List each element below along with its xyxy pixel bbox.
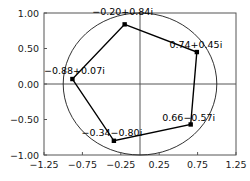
y-tick-label: 0.00 bbox=[18, 79, 39, 90]
y-tick-label: −0.50 bbox=[10, 114, 39, 125]
complex-plane-plot: −0.20+0.84i0.74+0.45i0.66−0.57i−0.34−0.8… bbox=[0, 0, 250, 181]
x-tick-label: −1.25 bbox=[29, 159, 58, 170]
y-tick-label: −1.00 bbox=[10, 150, 39, 161]
x-tick-label: 1.25 bbox=[225, 159, 246, 170]
data-point-marker bbox=[195, 50, 199, 54]
plot-canvas: −0.20+0.84i0.74+0.45i0.66−0.57i−0.34−0.8… bbox=[0, 0, 250, 181]
x-tick-label: 0.75 bbox=[187, 159, 208, 170]
x-tick-label: −0.75 bbox=[68, 159, 97, 170]
data-point-label: 0.74+0.45i bbox=[169, 39, 222, 50]
data-point-label: 0.66−0.57i bbox=[162, 112, 215, 123]
y-tick-label: 0.50 bbox=[18, 43, 39, 54]
x-tick-label: −0.25 bbox=[106, 159, 135, 170]
data-point-label: −0.34−0.80i bbox=[81, 127, 142, 138]
data-point-marker bbox=[70, 77, 74, 81]
y-tick-label: 1.00 bbox=[18, 8, 39, 19]
data-point-label: −0.88+0.07i bbox=[44, 65, 105, 76]
data-point-marker bbox=[122, 22, 126, 26]
x-tick-label: 0.25 bbox=[149, 159, 170, 170]
data-point-marker bbox=[112, 139, 116, 143]
data-point-label: −0.20+0.84i bbox=[92, 6, 153, 17]
